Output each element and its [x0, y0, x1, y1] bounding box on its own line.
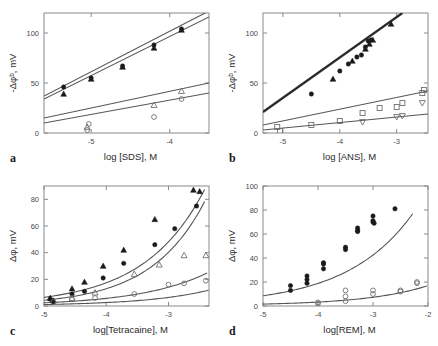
- data-point-filled-triangle: [191, 187, 197, 192]
- y-axis-title: Δφ, mV: [7, 229, 18, 262]
- panel-letter: d: [229, 324, 236, 338]
- y-axis-title: -Δφᵇ, mV: [7, 53, 18, 92]
- data-point-filled-circle: [194, 204, 198, 208]
- data-point-filled-triangle: [197, 188, 203, 193]
- fit-line: [44, 93, 209, 123]
- data-point-open-circle: [85, 128, 90, 133]
- data-point-filled-circle: [359, 53, 363, 57]
- data-point-filled-triangle: [121, 247, 127, 252]
- x-axis-title: log [ANS], M: [323, 151, 376, 162]
- x-tick-label: -5: [41, 310, 48, 319]
- y-tick-label: 60: [31, 222, 39, 231]
- data-point-filled-circle: [173, 226, 177, 230]
- series-filled-circle: [309, 38, 373, 96]
- fit-curve: [44, 273, 207, 303]
- data-point-filled-circle: [82, 289, 86, 293]
- x-tick-label: -2: [425, 310, 432, 319]
- x-tick-label: -3: [370, 310, 377, 319]
- panel-letter: a: [10, 151, 16, 165]
- data-point-filled-triangle: [152, 216, 158, 221]
- figure-container: -5-4050100log [SDS], M-Δφᵇ, mVa-5-4-3050…: [0, 0, 438, 346]
- y-tick-label: 0: [254, 302, 258, 311]
- series-filled-triangle: [47, 187, 202, 303]
- y-tick-label: 20: [250, 278, 258, 287]
- y-tick-label: 0: [35, 302, 39, 311]
- series-open-circle: [316, 280, 420, 306]
- x-tick-label: -5: [260, 310, 267, 319]
- panel-letter: c: [10, 324, 16, 338]
- series-open-circle: [85, 97, 184, 133]
- data-point-open-circle: [343, 299, 348, 304]
- y-tick-label: 60: [250, 230, 258, 239]
- x-tick-label: -4: [336, 137, 343, 146]
- data-point-filled-circle: [355, 55, 359, 59]
- data-layer: [263, 13, 428, 134]
- x-axis-title: log[REM], M: [323, 324, 375, 335]
- y-axis-title: Δφ, mV: [226, 229, 237, 262]
- data-point-filled-circle: [101, 276, 105, 280]
- data-point-filled-circle: [61, 85, 65, 89]
- plot-area-d: -5-4-3-2020406080100log[REM], MΔφ, mVd: [219, 173, 438, 346]
- fit-curve: [44, 189, 205, 297]
- data-point-filled-circle: [371, 214, 375, 218]
- data-layer: [44, 187, 209, 304]
- y-tick-label: 80: [31, 195, 39, 204]
- series-filled-triangle: [61, 27, 185, 96]
- data-point-open-circle: [166, 282, 171, 287]
- y-tick-label: 0: [254, 129, 258, 138]
- y-tick-label: 100: [26, 29, 39, 38]
- x-tick-label: -3: [393, 137, 400, 146]
- x-tick-label: -4: [315, 310, 322, 319]
- plot-area-b: -5-4-3050100log [ANS], M-Δφᵇ, mVb: [219, 0, 438, 173]
- y-tick-label: 100: [245, 29, 258, 38]
- panel-letter: b: [229, 151, 236, 165]
- series-filled-circle: [288, 207, 397, 293]
- y-tick-label: 0: [35, 129, 39, 138]
- y-tick-label: 40: [31, 248, 39, 257]
- plot-area-a: -5-4050100log [SDS], M-Δφᵇ, mVa: [0, 0, 219, 173]
- plot-frame: [44, 13, 209, 133]
- data-point-filled-triangle: [61, 91, 67, 96]
- data-point-open-square: [377, 106, 382, 111]
- series-open-triangle: [84, 88, 184, 129]
- data-point-filled-triangle: [330, 76, 336, 81]
- plot-frame: [263, 13, 428, 133]
- data-point-filled-circle: [309, 92, 313, 96]
- series-open-inverted-triangle: [360, 101, 426, 125]
- y-tick-label: 20: [31, 275, 39, 284]
- plot-panel-b: -5-4-3050100log [ANS], M-Δφᵇ, mVb: [219, 0, 438, 173]
- y-tick-label: 80: [250, 206, 258, 215]
- data-point-open-square: [360, 111, 365, 116]
- plot-panel-d: -5-4-3-2020406080100log[REM], MΔφ, mVd: [219, 173, 438, 346]
- data-point-filled-circle: [355, 229, 359, 233]
- data-point-open-circle: [343, 294, 348, 299]
- data-point-filled-circle: [153, 242, 157, 246]
- x-tick-label: -4: [166, 137, 173, 146]
- data-point-filled-triangle: [69, 286, 75, 291]
- data-point-filled-circle: [338, 69, 342, 73]
- data-point-filled-circle: [321, 262, 325, 266]
- data-point-open-inverted-triangle: [419, 101, 425, 106]
- data-layer: [44, 11, 209, 132]
- fit-line: [44, 11, 209, 96]
- data-point-filled-circle: [288, 283, 292, 287]
- data-point-filled-circle: [288, 288, 292, 292]
- plot-frame: [44, 186, 209, 306]
- x-tick-label: -5: [280, 137, 287, 146]
- y-axis-title: -Δφᵇ, mV: [226, 53, 237, 92]
- data-point-open-circle: [371, 292, 376, 297]
- y-tick-label: 100: [245, 182, 258, 191]
- data-point-filled-circle: [321, 267, 325, 271]
- data-point-filled-circle: [393, 207, 397, 211]
- y-tick-label: 50: [250, 79, 258, 88]
- data-point-open-triangle: [181, 252, 187, 257]
- x-tick-label: -4: [103, 310, 110, 319]
- series-filled-circle: [61, 27, 183, 89]
- fit-line: [263, 13, 402, 112]
- fit-line: [44, 83, 209, 118]
- data-point-open-circle: [343, 288, 348, 293]
- data-point-open-circle: [179, 97, 184, 102]
- y-tick-label: 50: [31, 79, 39, 88]
- data-point-filled-triangle: [100, 263, 106, 268]
- x-tick-label: -3: [165, 310, 172, 319]
